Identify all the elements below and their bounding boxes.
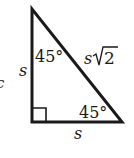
bottom-angle-label: 45° [79,103,107,122]
hypotenuse-radicand: 2 [104,48,115,68]
bottom-side-label: s [74,124,82,143]
special-right-triangle-diagram: 45° 45° s s s 2 c [0,0,134,158]
top-angle-label: 45° [35,47,63,66]
left-side-label: s [19,61,27,80]
clipped-edge-glyph: c [0,74,5,92]
hypotenuse-variable: s [84,49,92,68]
right-angle-marker [32,108,46,122]
